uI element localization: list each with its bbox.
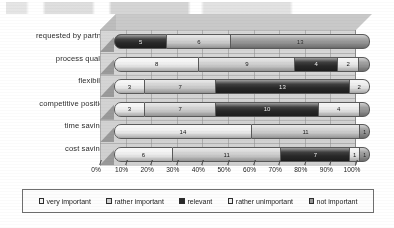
category-label-requested-by-partner: requested by partner xyxy=(0,31,108,40)
axis-tick-label: 20% xyxy=(141,166,154,173)
axis-tick-label: 0% xyxy=(91,166,101,173)
axis-tick-label: 90% xyxy=(320,166,333,173)
bar-row: 37132 xyxy=(114,79,370,94)
axis-tick xyxy=(253,160,256,165)
chart-root: requested by partnerprocess qualityflexi… xyxy=(0,0,394,228)
axis-tick-label: 10% xyxy=(115,166,128,173)
bar-segment: 14 xyxy=(114,124,252,139)
bar-value-label: 7 xyxy=(178,106,181,112)
axis-tick xyxy=(330,160,333,165)
bar-series-container: 56138942371323710414111611711 xyxy=(100,30,372,166)
bar-segment: 5 xyxy=(114,34,167,49)
scan-artifact-smudge xyxy=(6,2,336,14)
plot-area: 56138942371323710414111611711 xyxy=(100,14,372,166)
axis-tick-label: 40% xyxy=(192,166,205,173)
bar-value-label: 5 xyxy=(139,39,142,45)
axis-tick-label: 80% xyxy=(294,166,307,173)
axis-tick xyxy=(278,160,281,165)
bar-value-label: 3 xyxy=(128,84,131,90)
legend-label: rather important xyxy=(114,198,163,205)
chart-legend: very importantrather importantrelevantra… xyxy=(22,189,374,213)
axis-tick xyxy=(99,160,102,165)
bar-value-label: 13 xyxy=(279,84,286,90)
legend-label: not important xyxy=(317,198,358,205)
axis-tick-label: 50% xyxy=(217,166,230,173)
bar-value-label: 6 xyxy=(142,152,145,158)
bar-segment: 3 xyxy=(114,79,145,94)
bar-value-label: 7 xyxy=(178,84,181,90)
bar-segment: 1 xyxy=(360,124,370,139)
bar-value-label: 1 xyxy=(363,129,366,135)
bar-value-label: 10 xyxy=(264,106,271,112)
bar-row: 8942 xyxy=(114,57,370,72)
axis-tick xyxy=(150,160,153,165)
legend-swatch-icon xyxy=(39,198,45,204)
value-axis: 0%10%20%30%40%50%60%70%80%90%100% xyxy=(84,160,374,182)
legend-label: rather unimportant xyxy=(236,198,293,205)
bar-row: 37104 xyxy=(114,102,370,117)
bar-segment: 4 xyxy=(295,57,338,72)
axis-tick xyxy=(125,160,128,165)
legend-label: very important xyxy=(47,198,91,205)
axis-tick xyxy=(227,160,230,165)
bar-segment: 10 xyxy=(216,102,318,117)
category-label-cost-savings: cost savings xyxy=(0,144,108,153)
category-label-time-savings: time savings xyxy=(0,121,108,130)
legend-item-very-important[interactable]: very important xyxy=(39,198,91,205)
bar-row: 5613 xyxy=(114,34,370,49)
bar-segment: 2 xyxy=(338,57,359,72)
bar-value-label: 4 xyxy=(314,61,317,67)
bar-row: 14111 xyxy=(114,124,370,139)
bar-value-label: 14 xyxy=(180,129,187,135)
bar-segment: 9 xyxy=(199,57,295,72)
axis-tick xyxy=(176,160,179,165)
bar-value-label: 9 xyxy=(245,61,248,67)
bar-value-label: 2 xyxy=(358,84,361,90)
legend-item-relevant[interactable]: relevant xyxy=(179,198,212,205)
bar-segment xyxy=(360,102,370,117)
legend-swatch-icon xyxy=(309,198,315,204)
bar-segment xyxy=(359,57,370,72)
legend-item-rather-unimportant[interactable]: rather unimportant xyxy=(228,198,293,205)
legend-item-rather-important[interactable]: rather important xyxy=(106,198,163,205)
bar-value-label: 8 xyxy=(155,61,158,67)
bar-value-label: 4 xyxy=(337,106,340,112)
axis-tick-label: 70% xyxy=(269,166,282,173)
bar-value-label: 7 xyxy=(314,152,317,158)
bar-segment: 13 xyxy=(231,34,370,49)
legend-item-not-important[interactable]: not important xyxy=(309,198,358,205)
category-label-flexibility: flexibility xyxy=(0,76,108,85)
bar-value-label: 1 xyxy=(363,152,366,158)
bar-segment: 7 xyxy=(145,102,217,117)
bar-value-label: 3 xyxy=(128,106,131,112)
category-label-process-quality: process quality xyxy=(0,54,108,63)
bar-segment: 4 xyxy=(319,102,360,117)
bar-segment: 11 xyxy=(252,124,360,139)
legend-swatch-icon xyxy=(228,198,234,204)
bar-value-label: 2 xyxy=(346,61,349,67)
category-label-competitive-position: competitive position xyxy=(0,99,108,108)
axis-tick-label: 60% xyxy=(243,166,256,173)
axis-tick-label: 100% xyxy=(344,166,361,173)
plot-top-face xyxy=(100,14,372,30)
axis-tick xyxy=(304,160,307,165)
axis-tick xyxy=(355,160,358,165)
bar-value-label: 11 xyxy=(302,129,308,135)
bar-segment: 6 xyxy=(167,34,231,49)
bar-segment: 7 xyxy=(145,79,217,94)
bar-segment: 2 xyxy=(350,79,370,94)
bar-segment: 13 xyxy=(216,79,349,94)
legend-swatch-icon xyxy=(179,198,185,204)
bar-segment: 3 xyxy=(114,102,145,117)
category-axis: requested by partnerprocess qualityflexi… xyxy=(0,27,108,167)
legend-label: relevant xyxy=(187,198,212,205)
bar-value-label: 11 xyxy=(224,152,230,158)
axis-tick xyxy=(202,160,205,165)
bar-value-label: 13 xyxy=(297,39,304,45)
legend-swatch-icon xyxy=(106,198,112,204)
axis-tick-label: 30% xyxy=(166,166,179,173)
bar-value-label: 6 xyxy=(197,39,200,45)
bar-value-label: 1 xyxy=(353,152,356,158)
bar-segment: 8 xyxy=(114,57,199,72)
